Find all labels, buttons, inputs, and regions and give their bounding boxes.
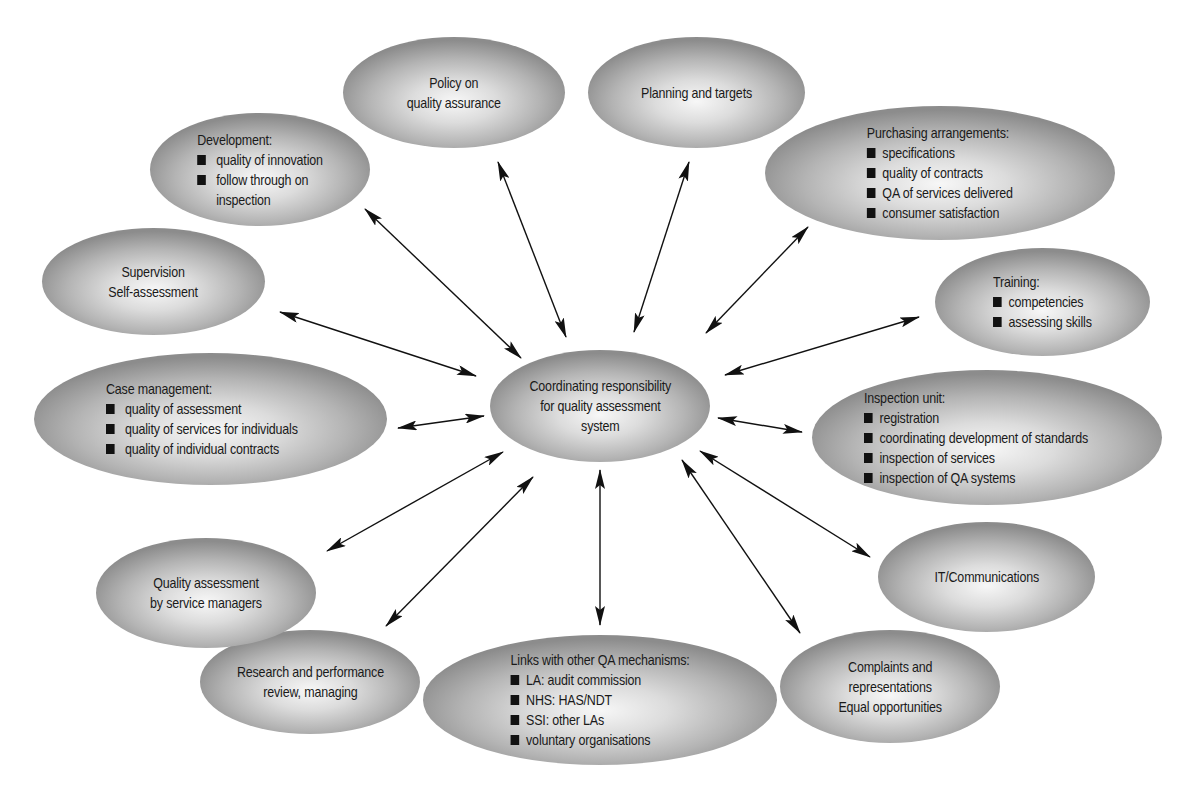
list-item: voluntary organisations <box>510 730 689 750</box>
square-bullet-icon <box>867 168 876 178</box>
square-bullet-icon <box>106 444 115 454</box>
training-title: Training: <box>993 272 1092 292</box>
list-item: quality of assessment <box>106 399 298 419</box>
node-training: Training: competencies assessing skills <box>935 248 1150 356</box>
list-item: competencies <box>993 292 1092 312</box>
arrow-training <box>725 317 919 375</box>
planning-line-1: Planning and targets <box>641 83 752 103</box>
list-item: inspection of services <box>864 448 1088 468</box>
arrow-policy <box>498 162 566 337</box>
list-item: inspection of QA systems <box>864 468 1088 488</box>
node-supervision: Supervision Self-assessment <box>42 228 265 335</box>
square-bullet-icon <box>510 695 519 705</box>
purchasing-title: Purchasing arrangements: <box>867 123 1013 143</box>
node-development: Development: quality of innovation follo… <box>150 113 370 226</box>
node-purchasing: Purchasing arrangements: specifications … <box>765 106 1115 240</box>
list-item: quality of contracts <box>867 163 1013 183</box>
arrow-purchasing <box>706 227 808 333</box>
square-bullet-icon <box>867 208 876 218</box>
research-line-1: Research and performance <box>236 662 383 682</box>
square-bullet-icon <box>993 317 1002 327</box>
square-bullet-icon <box>864 413 873 423</box>
complaints-line-3: Equal opportunities <box>838 697 941 717</box>
node-complaints: Complaints and representations Equal opp… <box>780 630 1000 743</box>
arrow-development <box>365 209 521 358</box>
list-item: coordinating development of standards <box>864 428 1088 448</box>
square-bullet-icon <box>867 188 876 198</box>
list-item: QA of services delivered <box>867 183 1013 203</box>
arrow-planning <box>634 162 689 332</box>
arrow-quality-assessment <box>327 452 503 551</box>
arrow-case-management <box>398 416 484 428</box>
list-item: NHS: HAS/NDT <box>510 690 689 710</box>
node-links-qa-mechanisms: Links with other QA mechanisms: LA: audi… <box>423 635 777 765</box>
list-item: consumer satisfaction <box>867 203 1013 223</box>
square-bullet-icon <box>197 175 206 185</box>
node-quality-assessment: Quality assessment by service managers <box>96 538 316 648</box>
center-line-3: system <box>529 416 671 436</box>
square-bullet-icon <box>510 715 519 725</box>
node-inspection-unit: Inspection unit: registration coordinati… <box>812 370 1162 505</box>
quality-assessment-line-1: Quality assessment <box>150 573 262 593</box>
policy-line-1: Policy on <box>407 73 501 93</box>
arrow-complaints <box>682 460 800 633</box>
complaints-line-2: representations <box>838 677 941 697</box>
research-line-2: review, managing <box>236 682 383 702</box>
square-bullet-icon <box>867 148 876 158</box>
supervision-line-1: Supervision <box>109 262 199 282</box>
square-bullet-icon <box>106 404 115 414</box>
square-bullet-icon <box>864 433 873 443</box>
square-bullet-icon <box>864 453 873 463</box>
list-item: SSI: other LAs <box>510 710 689 730</box>
links-title: Links with other QA mechanisms: <box>510 650 689 670</box>
list-item: quality of services for individuals <box>106 419 298 439</box>
it-line-1: IT/Communications <box>934 567 1038 587</box>
square-bullet-icon <box>510 735 519 745</box>
square-bullet-icon <box>510 675 519 685</box>
list-item: LA: audit commission <box>510 670 689 690</box>
development-title: Development: <box>197 130 323 150</box>
inspection-title: Inspection unit: <box>864 388 1088 408</box>
node-planning: Planning and targets <box>588 37 805 148</box>
square-bullet-icon <box>106 424 115 434</box>
center-line-1: Coordinating responsibility <box>529 376 671 396</box>
arrow-research <box>386 477 533 626</box>
node-policy: Policy on quality assurance <box>343 37 565 148</box>
node-it-communications: IT/Communications <box>878 522 1095 632</box>
square-bullet-icon <box>197 155 206 165</box>
list-item: assessing skills <box>993 312 1092 332</box>
policy-line-2: quality assurance <box>407 93 501 113</box>
list-item: quality of innovation <box>197 150 323 170</box>
square-bullet-icon <box>993 297 1002 307</box>
square-bullet-icon <box>864 473 873 483</box>
list-item: registration <box>864 408 1088 428</box>
list-item: follow through oninspection <box>197 170 323 210</box>
list-item: specifications <box>867 143 1013 163</box>
arrow-inspection <box>718 418 802 432</box>
quality-assessment-line-2: by service managers <box>150 593 262 613</box>
center-line-2: for quality assessment <box>529 396 671 416</box>
supervision-line-2: Self-assessment <box>109 282 199 302</box>
list-item: quality of individual contracts <box>106 439 298 459</box>
complaints-line-1: Complaints and <box>838 657 941 677</box>
node-case-management: Case management: quality of assessment q… <box>34 353 387 485</box>
node-coordinating-responsibility: Coordinating responsibility for quality … <box>490 350 710 462</box>
case-management-title: Case management: <box>106 379 298 399</box>
